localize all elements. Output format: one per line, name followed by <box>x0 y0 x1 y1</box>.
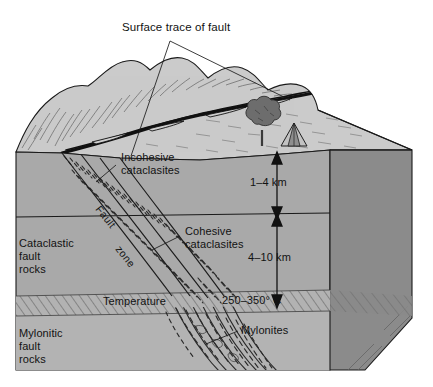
label-incohesive-cataclasites-line1: Incohesive <box>121 151 175 164</box>
label-surface-trace-of-fault: Surface trace of fault <box>122 21 230 35</box>
label-cohesive-cataclasites-line1: Cohesive <box>185 225 232 238</box>
label-cataclastic-fault-rocks-line3: rocks <box>19 263 46 276</box>
label-mylonitic-fault-rocks-line1: Mylonitic <box>19 327 63 340</box>
label-mylonites: Mylonites <box>241 324 288 337</box>
label-depth-lower: 4–10 km <box>248 251 291 264</box>
label-cataclastic-fault-rocks-line1: Cataclastic <box>19 237 74 250</box>
mylonitic-block-fill <box>10 310 340 380</box>
label-mylonitic-fault-rocks-line3: rocks <box>19 353 46 366</box>
label-mylonitic-fault-rocks-line2: fault <box>19 340 40 353</box>
label-temperature-value: 250–350° C <box>222 294 281 307</box>
right-side-face <box>330 150 414 378</box>
label-cohesive-cataclasites-line2: cataclasites <box>185 238 244 251</box>
label-cataclastic-fault-rocks-line2: fault <box>19 250 40 263</box>
label-incohesive-cataclasites-line2: cataclasites <box>121 164 180 177</box>
label-temperature: Temperature <box>103 295 166 308</box>
figure-canvas: Surface trace of fault Incohesive catacl… <box>0 0 433 387</box>
label-depth-upper: 1–4 km <box>250 176 287 189</box>
block-diagram-graphic <box>0 0 433 387</box>
top-surface <box>16 58 412 160</box>
